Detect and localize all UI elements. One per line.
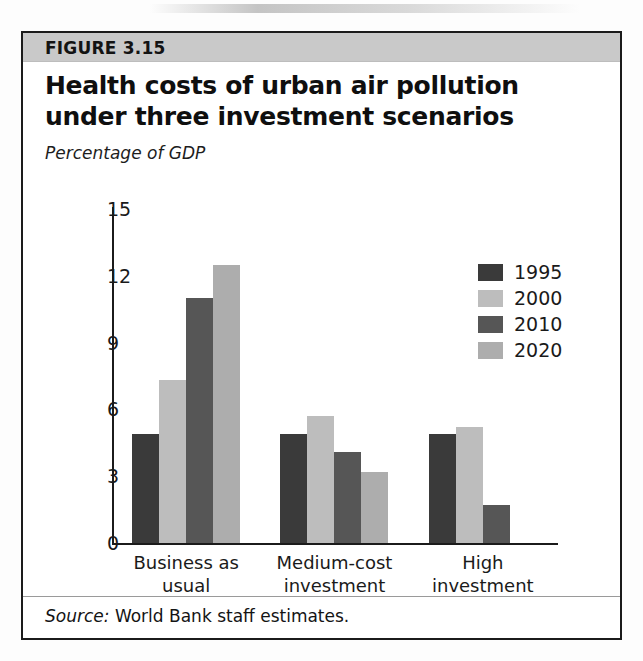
bar (132, 434, 159, 543)
bar (456, 427, 483, 543)
legend-swatch-icon (478, 290, 503, 307)
bar (334, 452, 361, 543)
bar (186, 298, 213, 543)
x-axis-line (112, 543, 558, 545)
x-axis-category-label: Highinvestment (409, 551, 557, 597)
figure-number-label: FIGURE 3.15 (45, 38, 165, 58)
legend-label: 2010 (514, 313, 562, 335)
figure-title: Health costs of urban air pollution unde… (45, 70, 595, 132)
bar (213, 265, 240, 543)
bar-group (112, 209, 260, 543)
x-axis-category-label: Business as usual (112, 551, 260, 597)
figure-page: FIGURE 3.15 Health costs of urban air po… (0, 0, 643, 661)
legend-swatch-icon (478, 264, 503, 281)
legend-swatch-icon (478, 316, 503, 333)
x-axis-category-label: Medium-costinvestment (260, 551, 408, 597)
footer-divider (23, 596, 620, 597)
scan-artifact (150, 4, 580, 13)
bar-chart: 03691215 Business as usualMedium-costinv… (23, 173, 620, 593)
source-prefix: Source: (45, 606, 110, 626)
source-note: Source: World Bank staff estimates. (45, 606, 349, 626)
bar (159, 380, 186, 543)
legend-item: 1995 (478, 259, 562, 285)
figure-subtitle: Percentage of GDP (45, 143, 205, 163)
legend-label: 2000 (514, 287, 562, 309)
bar (307, 416, 334, 543)
bar (429, 434, 456, 543)
figure-box: FIGURE 3.15 Health costs of urban air po… (21, 31, 622, 640)
chart-legend: 1995200020102020 (478, 259, 562, 363)
legend-item: 2010 (478, 311, 562, 337)
legend-item: 2000 (478, 285, 562, 311)
bar (483, 505, 510, 543)
bar (361, 472, 388, 543)
bar (280, 434, 307, 543)
legend-label: 2020 (514, 339, 562, 361)
legend-label: 1995 (514, 261, 562, 283)
legend-item: 2020 (478, 337, 562, 363)
legend-swatch-icon (478, 342, 503, 359)
bar-group (260, 209, 408, 543)
source-text: World Bank staff estimates. (115, 606, 349, 626)
